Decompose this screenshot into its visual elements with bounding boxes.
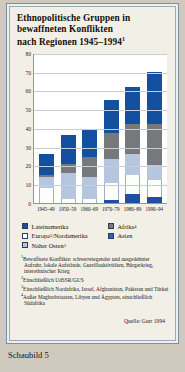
bar-segment-asien bbox=[82, 129, 97, 157]
gridline bbox=[34, 166, 167, 167]
x-axis-label: 1950–59 bbox=[57, 206, 79, 217]
legend-label-naher-osten: Naher Osten bbox=[32, 242, 64, 249]
bar-segment-lateinamerika bbox=[104, 200, 119, 203]
figure-frame: Ethnopolitische Gruppen in bewaffneten K… bbox=[6, 3, 179, 344]
legend-swatch-europa-nordamerika bbox=[22, 233, 28, 239]
figure-inner-border: Ethnopolitische Gruppen in bewaffneten K… bbox=[9, 6, 176, 341]
legend-item-afrika: Afrika4 bbox=[108, 223, 169, 230]
bar-segment-naher-osten bbox=[82, 177, 97, 200]
bar-1970–79 bbox=[104, 100, 119, 203]
legend-marker-afrika: 4 bbox=[134, 224, 136, 229]
legend-label-europa: Europa bbox=[32, 232, 50, 239]
footnote-3: 3Einschließlich Nordafrika, Israel, Afgh… bbox=[21, 284, 169, 292]
figure-caption: Schaubild 5 bbox=[8, 350, 49, 360]
legend-label-nordamerika: /Nordamerika bbox=[52, 232, 88, 239]
bar-segment-afrika bbox=[147, 124, 162, 165]
source-note: Quelle: Gurr 1994 bbox=[16, 318, 165, 324]
y-axis-tick: 10 bbox=[25, 182, 31, 188]
bar-segment-naher-osten bbox=[104, 159, 119, 183]
legend-label-lateinamerika: Lateinamerika bbox=[32, 223, 69, 230]
chart-plot: 01020304050607080 bbox=[33, 54, 167, 204]
bar-segment-europa-nordamerika bbox=[39, 188, 54, 203]
y-axis-tick: 40 bbox=[25, 126, 31, 132]
bar-segment-asien bbox=[61, 135, 76, 163]
legend-swatch-naher-osten bbox=[22, 242, 28, 248]
bar-segment-asien bbox=[39, 154, 54, 175]
bar-1945–49 bbox=[39, 154, 54, 203]
bar-segment-europa-nordamerika bbox=[82, 199, 97, 203]
title-line-3: nach Regionen 1945–1994 bbox=[17, 37, 122, 47]
y-axis-tick: 30 bbox=[25, 145, 31, 151]
x-axis-labels: 1945–491950–591960–691970–791980–891990–… bbox=[33, 206, 167, 217]
chart-legend: Lateinamerika Afrika4 Europa2/Nordamerik… bbox=[22, 223, 169, 249]
figure-page: Ethnopolitische Gruppen in bewaffneten K… bbox=[0, 0, 185, 372]
gridline bbox=[34, 54, 167, 55]
bar-1950–59 bbox=[61, 135, 76, 203]
x-axis-label: 1980–89 bbox=[122, 206, 144, 217]
gridline bbox=[34, 148, 167, 149]
bar-segment-lateinamerika bbox=[147, 197, 162, 203]
bar-segment-lateinamerika bbox=[125, 194, 140, 203]
x-axis-label: 1970–79 bbox=[100, 206, 122, 217]
y-axis-tick: 0 bbox=[28, 201, 31, 207]
gridline bbox=[34, 91, 167, 92]
bar-segment-asien bbox=[147, 72, 162, 125]
gridline bbox=[34, 73, 167, 74]
chart-area: 01020304050607080 1945–491950–591960–691… bbox=[16, 52, 169, 220]
footnote-1: 1Bewaffnete Konflikte: schwerwiegender u… bbox=[21, 254, 169, 275]
footnote-3-text: Einschließlich Nordafrika, Israel, Afgha… bbox=[23, 285, 168, 291]
title-line-2: bewaffneten Konflikten bbox=[17, 24, 113, 34]
legend-label-asien: Asien bbox=[118, 232, 133, 239]
legend-marker-naher-osten: 3 bbox=[64, 243, 66, 248]
legend-swatch-lateinamerika bbox=[22, 223, 28, 229]
bar-segment-afrika bbox=[104, 133, 119, 159]
x-axis-label: 1960–69 bbox=[78, 206, 100, 217]
bar-segment-afrika bbox=[61, 164, 76, 173]
bar-segment-europa-nordamerika bbox=[147, 180, 162, 197]
bar-segment-asien bbox=[104, 100, 119, 133]
legend-item-europa-nordamerika: Europa2/Nordamerika bbox=[22, 232, 108, 239]
y-axis-tick: 20 bbox=[25, 163, 31, 169]
y-axis-tick: 70 bbox=[25, 70, 31, 76]
footnote-4: 4Außer Maghrebstaaten, Libyen und Ägypte… bbox=[21, 292, 169, 307]
footnote-1-text: Bewaffnete Konflikte: schwerwiegender un… bbox=[23, 256, 153, 275]
page-title: Ethnopolitische Gruppen in bewaffneten K… bbox=[17, 13, 169, 48]
gridline bbox=[34, 185, 167, 186]
x-axis-label: 1945–49 bbox=[35, 206, 57, 217]
footnote-2: 2Einschließlich UdSSR/GUS bbox=[21, 275, 169, 283]
legend-item-naher-osten: Naher Osten3 bbox=[22, 242, 108, 249]
bar-segment-naher-osten bbox=[147, 165, 162, 180]
y-axis-tick: 50 bbox=[25, 107, 31, 113]
legend-swatch-asien bbox=[108, 233, 114, 239]
bar-segment-naher-osten bbox=[39, 177, 54, 188]
y-axis-tick: 80 bbox=[25, 51, 31, 57]
legend-swatch-afrika bbox=[108, 223, 114, 229]
bar-segment-europa-nordamerika bbox=[125, 175, 140, 194]
legend-item-asien: Asien bbox=[108, 232, 169, 239]
gridline bbox=[34, 129, 167, 130]
title-footnote-marker: 1 bbox=[122, 36, 125, 42]
title-line-1: Ethnopolitische Gruppen in bbox=[17, 13, 130, 23]
footnote-2-text: Einschließlich UdSSR/GUS bbox=[23, 277, 84, 283]
bar-segment-naher-osten bbox=[125, 154, 140, 175]
gridline bbox=[34, 110, 167, 111]
footnotes: 1Bewaffnete Konflikte: schwerwiegender u… bbox=[21, 254, 169, 307]
x-axis-label: 1990–94 bbox=[143, 206, 165, 217]
bar-segment-europa-nordamerika bbox=[61, 199, 76, 203]
legend-item-lateinamerika: Lateinamerika bbox=[22, 223, 108, 230]
footnote-4-text: Außer Maghrebstaaten, Libyen und Ägypten… bbox=[23, 294, 152, 306]
legend-label-afrika: Afrika bbox=[118, 223, 135, 230]
y-axis-tick: 60 bbox=[25, 88, 31, 94]
